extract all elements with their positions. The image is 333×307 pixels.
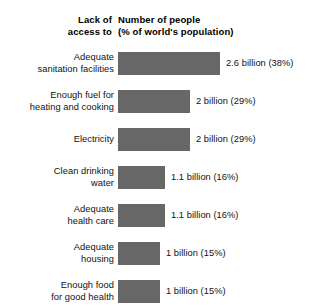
- bar-category-label-line1: Adequate: [2, 52, 114, 64]
- category-column-header-line2: access to: [0, 26, 112, 38]
- value-column-header-line1: Number of people: [118, 14, 333, 26]
- value-column-header-line2: (% of world's population): [118, 26, 333, 38]
- bar: [118, 204, 165, 227]
- bar-category-label-line1: Enough food: [2, 280, 114, 292]
- category-column-header: Lack of access to: [0, 14, 112, 38]
- bar-category-label-line1: Clean drinking: [2, 166, 114, 178]
- bar-category-label-line1: Adequate: [2, 204, 114, 216]
- bar-category-label-line2: heating and cooking: [2, 102, 114, 114]
- bar-value-label: 2.6 billion (38%): [226, 57, 294, 69]
- plot-area: Adequatesanitation facilities2.6 billion…: [0, 52, 333, 302]
- chart-header: Lack of access to Number of people (% of…: [0, 14, 333, 44]
- bar-row: Electricity2 billion (29%): [0, 128, 333, 162]
- bar-row: Clean drinkingwater1.1 billion (16%): [0, 166, 333, 200]
- bar-value-label: 1.1 billion (16%): [171, 171, 239, 183]
- bar: [118, 166, 165, 189]
- bar-category-label-line2: sanitation facilities: [2, 64, 114, 76]
- bar-row: Adequatehealth care1.1 billion (16%): [0, 204, 333, 238]
- bar-category-label: Electricity: [2, 128, 114, 146]
- bar-category-label: Enough fuel forheating and cooking: [2, 90, 114, 113]
- value-column-header: Number of people (% of world's populatio…: [118, 14, 333, 38]
- bar-category-label: Adequatesanitation facilities: [2, 52, 114, 75]
- bar-category-label-line2: water: [2, 178, 114, 190]
- bar: [118, 280, 160, 303]
- bar-value-label: 2 billion (29%): [196, 95, 256, 107]
- bar-category-label: Adequatehousing: [2, 242, 114, 265]
- bar: [118, 90, 190, 113]
- bar-category-label: Clean drinkingwater: [2, 166, 114, 189]
- bar-value-label: 1 billion (15%): [166, 285, 226, 297]
- bar-category-label-line2: for good health: [2, 292, 114, 304]
- bar-value-label: 2 billion (29%): [196, 133, 256, 145]
- bar-category-label-line2: health care: [2, 216, 114, 228]
- bar-value-label: 1.1 billion (16%): [171, 209, 239, 221]
- bar-row: Enough foodfor good health1 billion (15%…: [0, 280, 333, 307]
- category-column-header-line1: Lack of: [0, 14, 112, 26]
- bar: [118, 128, 190, 151]
- bar-category-label: Adequatehealth care: [2, 204, 114, 227]
- bar-category-label-line1: Adequate: [2, 242, 114, 254]
- bar-category-label: Enough foodfor good health: [2, 280, 114, 303]
- bar-category-label-line1: Enough fuel for: [2, 90, 114, 102]
- bar-category-label-line1: Electricity: [2, 134, 114, 146]
- bar-row: Adequatesanitation facilities2.6 billion…: [0, 52, 333, 86]
- bar-row: Adequatehousing1 billion (15%): [0, 242, 333, 276]
- bar: [118, 242, 160, 265]
- bar-value-label: 1 billion (15%): [166, 247, 226, 259]
- bar-row: Enough fuel forheating and cooking2 bill…: [0, 90, 333, 124]
- bar-category-label-line2: housing: [2, 254, 114, 266]
- bar: [118, 52, 220, 75]
